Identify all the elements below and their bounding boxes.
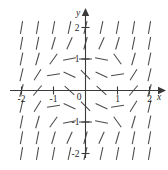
slope-segment: [52, 37, 56, 49]
slope-segment: [100, 147, 103, 160]
slope-field-plot: -2-112-2-112 x y 0: [0, 0, 168, 170]
slope-segment: [148, 116, 151, 129]
y-tick-label: -2: [72, 149, 80, 159]
y-tick-label: -1: [72, 117, 80, 127]
slope-segment: [130, 69, 137, 80]
slope-segment: [20, 116, 23, 129]
slope-segment: [36, 147, 38, 160]
slope-segment: [99, 37, 104, 49]
slope-segment: [64, 104, 76, 109]
slope-segment: [67, 132, 72, 144]
slope-segment: [132, 116, 136, 128]
slope-segment: [116, 37, 120, 49]
slope-segment: [111, 105, 124, 107]
slope-segment: [52, 147, 54, 160]
y-tick-label: 2: [75, 23, 80, 33]
slope-segment: [34, 101, 41, 112]
slope-segment: [111, 74, 124, 76]
slope-segment: [132, 21, 134, 34]
slope-segment: [36, 21, 38, 34]
slope-segment: [148, 21, 150, 34]
slope-segment: [47, 74, 60, 76]
slope-segment: [148, 131, 150, 144]
slope-segment: [67, 37, 72, 49]
slope-segment: [99, 132, 104, 144]
slope-segment: [132, 53, 136, 65]
axes-group: [10, 8, 166, 158]
slope-segment: [100, 21, 103, 34]
slope-segment: [52, 21, 54, 34]
x-tick-label: 1: [115, 94, 120, 104]
slope-segment: [95, 58, 108, 60]
y-tick-label: 1: [75, 54, 80, 64]
slope-segment: [116, 147, 118, 160]
origin-label: 0: [77, 92, 82, 102]
slope-segment: [20, 147, 22, 160]
slope-segment: [148, 147, 150, 160]
slope-segment: [52, 132, 56, 144]
slope-segment: [50, 117, 58, 128]
slope-segment: [116, 132, 120, 144]
slope-segment: [47, 105, 60, 107]
x-axis-label: x: [156, 92, 162, 102]
x-tick-label: -2: [18, 94, 26, 104]
slope-field-figure: -2-112-2-112 x y 0: [0, 0, 168, 170]
slope-segment: [95, 121, 108, 123]
slope-segment: [96, 72, 108, 77]
slope-segment: [148, 53, 151, 66]
slope-segment: [36, 53, 40, 65]
slope-segment: [64, 72, 76, 77]
y-axis-arrow: [82, 8, 89, 16]
slope-segment: [20, 68, 23, 81]
slope-segment: [68, 21, 71, 34]
slope-segment: [116, 21, 118, 34]
slope-segment: [132, 37, 135, 50]
slope-segment: [148, 68, 151, 81]
slope-segment: [20, 53, 23, 66]
slope-segment: [68, 147, 71, 160]
slope-segment: [34, 69, 41, 80]
y-axis-label: y: [75, 8, 81, 18]
slope-segment: [36, 37, 39, 50]
slope-segment: [96, 104, 108, 109]
slope-segment: [20, 37, 22, 50]
slope-segment: [148, 37, 150, 50]
slope-segment: [132, 147, 134, 160]
x-tick-label: -1: [50, 94, 58, 104]
slope-segment: [50, 54, 58, 65]
slope-segment: [130, 101, 137, 112]
slope-segment: [114, 117, 122, 128]
slope-segment: [132, 131, 135, 144]
slope-segment: [36, 116, 40, 128]
slope-segment: [36, 131, 39, 144]
slope-segment: [114, 54, 122, 65]
x-tick-label: 2: [147, 94, 152, 104]
slope-segment: [20, 21, 22, 34]
slope-segment: [20, 131, 22, 144]
